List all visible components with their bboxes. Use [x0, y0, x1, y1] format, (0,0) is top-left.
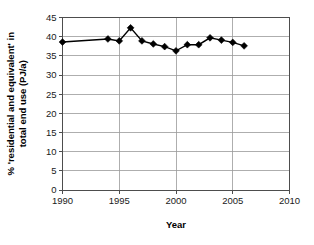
svg-text:% 'residential and equivalent': % 'residential and equivalent' in — [5, 32, 16, 176]
line-chart: 051015202530354045 19901995200020052010 … — [0, 0, 314, 245]
y-tick-label: 15 — [46, 127, 57, 138]
y-tick-label: 10 — [46, 146, 57, 157]
x-tick-label: 1990 — [52, 195, 73, 206]
y-tick-label: 45 — [46, 12, 57, 23]
x-tick-label: 1995 — [109, 195, 130, 206]
x-tick-label: 2000 — [165, 195, 186, 206]
svg-text:total end use (PJ/a): total end use (PJ/a) — [17, 60, 28, 147]
y-tick-label: 30 — [46, 69, 57, 80]
chart-screenshot: 051015202530354045 19901995200020052010 … — [0, 0, 314, 245]
x-axis-title: Year — [166, 219, 186, 230]
x-tick-label: 2005 — [222, 195, 243, 206]
y-tick-label: 25 — [46, 89, 57, 100]
y-tick-label: 35 — [46, 50, 57, 61]
x-tick-label: 2010 — [279, 195, 300, 206]
y-tick-label: 0 — [51, 184, 56, 195]
y-tick-label: 20 — [46, 108, 57, 119]
y-tick-label: 5 — [51, 165, 56, 176]
y-tick-label: 40 — [46, 31, 57, 42]
